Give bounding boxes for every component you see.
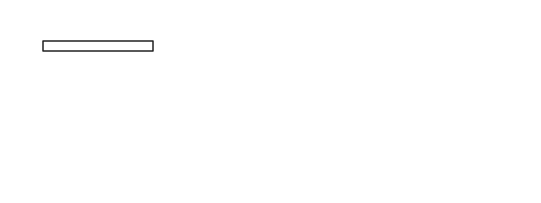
top-slab <box>43 41 153 51</box>
truss-section-diagram <box>0 0 541 203</box>
